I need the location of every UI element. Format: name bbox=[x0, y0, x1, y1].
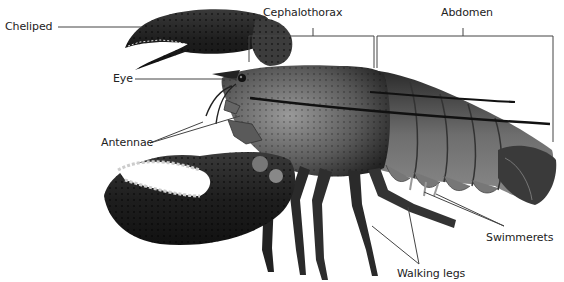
label-eye: Eye bbox=[113, 73, 133, 84]
label-abdomen: Abdomen bbox=[441, 7, 493, 18]
label-swimmerets: Swimmerets bbox=[486, 232, 553, 243]
lobster-illustration bbox=[0, 0, 564, 282]
lobster-diagram: Cheliped Cephalothorax Abdomen Eye Anten… bbox=[0, 0, 564, 282]
label-walking-legs: Walking legs bbox=[397, 268, 465, 279]
label-cephalothorax: Cephalothorax bbox=[263, 7, 342, 18]
label-antennae: Antennae bbox=[101, 137, 153, 148]
abdomen-body bbox=[370, 70, 556, 205]
label-cheliped: Cheliped bbox=[5, 21, 52, 32]
